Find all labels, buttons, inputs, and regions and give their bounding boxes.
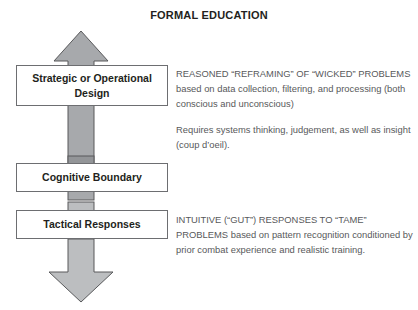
annotation-strategic-paragraph-1: REASONED “REFRAMING” OF “WICKED” PROBLEM… xyxy=(176,66,416,112)
annotation-strategic-paragraph-2: Requires systems thinking, judgement, as… xyxy=(176,122,416,152)
stage-label-cognitive: Cognitive Boundary xyxy=(36,170,148,184)
arrow-layer xyxy=(0,0,418,310)
connector-segment-below-cognitive xyxy=(68,191,94,200)
stage-box-cognitive-boundary: Cognitive Boundary xyxy=(16,163,168,192)
annotation-strategic: REASONED “REFRAMING” OF “WICKED” PROBLEM… xyxy=(176,66,416,152)
downward-arrow xyxy=(49,239,113,302)
stage-label-tactical: Tactical Responses xyxy=(37,217,146,231)
stage-box-strategic-or-operational-design: Strategic or Operational Design xyxy=(16,65,168,106)
annotation-tactical-paragraph-1: INTUITIVE (“GUT”) RESPONSES TO “TAME” PR… xyxy=(176,212,416,258)
stage-label-strategic: Strategic or Operational Design xyxy=(17,71,167,99)
annotation-tactical: INTUITIVE (“GUT”) RESPONSES TO “TAME” PR… xyxy=(176,212,416,258)
stage-box-tactical-responses: Tactical Responses xyxy=(16,210,168,239)
diagram-canvas: FORMAL EDUCATION Strategic or Operationa… xyxy=(0,0,418,310)
